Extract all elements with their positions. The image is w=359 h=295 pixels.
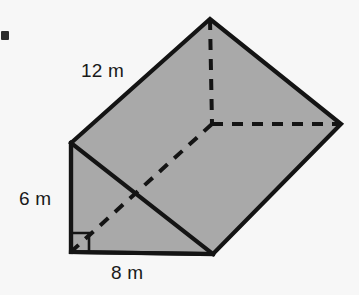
triangular-prism-figure: [0, 0, 359, 295]
prism-silhouette: [71, 19, 341, 254]
dimension-label-length: 12 m: [81, 61, 124, 80]
prism-bottom-edge: [71, 252, 213, 254]
dimension-label-height: 6 m: [19, 189, 51, 208]
figure-page: 12 m 6 m 8 m: [0, 0, 359, 295]
dimension-label-base: 8 m: [111, 263, 143, 282]
